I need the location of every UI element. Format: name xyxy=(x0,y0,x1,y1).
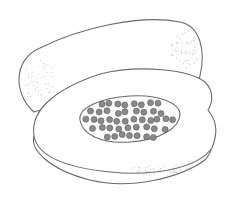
stipple-dot xyxy=(40,89,41,90)
stipple-dot xyxy=(181,52,182,53)
stipple-dot xyxy=(187,42,188,43)
stipple-dot xyxy=(158,170,159,171)
stipple-dot xyxy=(33,85,34,86)
stipple-dot xyxy=(186,170,187,171)
stipple-dot xyxy=(186,42,187,43)
seed xyxy=(127,133,133,139)
stipple-dot xyxy=(188,60,189,61)
stipple-dot xyxy=(49,83,50,84)
stipple-dot xyxy=(31,96,32,97)
stipple-dot xyxy=(46,64,47,65)
stipple-dot xyxy=(51,72,52,73)
seed xyxy=(91,117,97,123)
stipple-dot xyxy=(174,171,175,172)
stipple-dot xyxy=(147,171,148,172)
stipple-dot xyxy=(187,168,188,169)
stipple-dot xyxy=(193,62,194,63)
stipple-dot xyxy=(35,82,36,83)
stipple-dot xyxy=(36,78,37,79)
stipple-dot xyxy=(186,67,187,68)
stipple-dot xyxy=(40,60,41,61)
seed xyxy=(122,109,128,115)
stipple-dot xyxy=(196,58,197,59)
stipple-dot xyxy=(164,165,165,166)
stipple-dot xyxy=(196,60,197,61)
stipple-dot xyxy=(44,65,45,66)
stipple-dot xyxy=(195,47,196,48)
stipple-dot xyxy=(143,174,144,175)
stipple-dot xyxy=(182,43,183,44)
seed xyxy=(125,125,131,131)
stipple-dot xyxy=(188,43,189,44)
stipple-dot xyxy=(153,168,154,169)
stipple-dot xyxy=(190,43,191,44)
seed xyxy=(106,100,112,106)
stipple-dot xyxy=(188,31,189,32)
stipple-dot xyxy=(181,50,182,51)
stipple-dot xyxy=(173,168,174,169)
stipple-dot xyxy=(160,168,161,169)
stipple-dot xyxy=(176,42,177,43)
stipple-dot xyxy=(28,84,29,85)
stipple-dot xyxy=(43,67,44,68)
stipple-dot xyxy=(180,60,181,61)
stipple-dot xyxy=(186,51,187,52)
stipple-dot xyxy=(52,86,53,87)
stipple-dot xyxy=(179,38,180,39)
stipple-dot xyxy=(31,81,32,82)
seed xyxy=(115,101,121,107)
stipple-dot xyxy=(37,87,38,88)
stipple-dot xyxy=(173,55,174,56)
seed xyxy=(151,108,157,114)
stipple-dot xyxy=(180,170,181,171)
stipple-dot xyxy=(186,168,187,169)
stipple-dot xyxy=(194,63,195,64)
stipple-dot xyxy=(171,54,172,55)
seed xyxy=(144,124,150,130)
seed xyxy=(141,109,147,115)
stipple-dot xyxy=(171,55,172,56)
stipple-dot xyxy=(177,66,178,67)
stipple-dot xyxy=(173,50,174,51)
stipple-dot xyxy=(191,41,192,42)
stipple-dot xyxy=(197,50,198,51)
seed xyxy=(99,125,105,131)
stipple-dot xyxy=(194,46,195,47)
stipple-dot xyxy=(147,167,148,168)
stipple-dot xyxy=(35,88,36,89)
stipple-dot xyxy=(150,168,151,169)
stipple-dot xyxy=(193,40,194,41)
stipple-dot xyxy=(154,169,155,170)
stipple-dot xyxy=(25,85,26,86)
seed xyxy=(158,111,164,117)
stipple-dot xyxy=(51,67,52,68)
seed xyxy=(138,102,144,108)
stipple-dot xyxy=(140,173,141,174)
stipple-dot xyxy=(181,33,182,34)
stipple-dot xyxy=(26,69,27,70)
seed xyxy=(154,116,160,122)
seed xyxy=(122,102,128,108)
stipple-dot xyxy=(28,93,29,94)
stipple-dot xyxy=(180,170,181,171)
seed xyxy=(99,101,105,107)
stipple-dot xyxy=(47,88,48,89)
stipple-dot xyxy=(38,91,39,92)
stipple-dot xyxy=(169,171,170,172)
stipple-dot xyxy=(180,167,181,168)
seed xyxy=(133,108,139,114)
stipple-dot xyxy=(177,54,178,55)
stipple-dot xyxy=(195,52,196,53)
stipple-dot xyxy=(45,83,46,84)
stipple-dot xyxy=(138,170,139,171)
seed xyxy=(107,117,113,123)
seed xyxy=(148,118,154,124)
stipple-dot xyxy=(176,58,177,59)
stipple-dot xyxy=(175,49,176,50)
seed xyxy=(112,133,118,139)
stipple-dot xyxy=(139,168,140,169)
stipple-dot xyxy=(44,76,45,77)
stipple-dot xyxy=(31,77,32,78)
stipple-dot xyxy=(182,45,183,46)
seed xyxy=(163,116,169,122)
